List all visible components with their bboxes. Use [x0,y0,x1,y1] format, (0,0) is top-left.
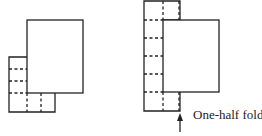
left-figure [9,20,83,112]
right-figure [144,1,219,111]
arrow-up-icon [177,113,183,132]
fold-annotation: One-half fold [193,107,262,123]
